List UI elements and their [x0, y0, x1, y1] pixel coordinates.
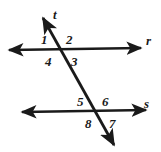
geometry-figure: r s t 1 2 3 4 5 6 7 8 — [0, 0, 161, 152]
line-label-r: r — [146, 34, 151, 47]
angle-label-6: 6 — [102, 95, 109, 108]
line-label-s: s — [144, 97, 149, 110]
angle-label-1: 1 — [41, 33, 48, 46]
line-s-stroke — [22, 110, 146, 112]
angle-label-4: 4 — [45, 55, 52, 68]
geometry-canvas — [0, 0, 161, 152]
line-label-t: t — [53, 8, 57, 21]
angle-label-7: 7 — [109, 117, 116, 130]
angle-label-8: 8 — [85, 117, 92, 130]
angle-label-3: 3 — [71, 55, 78, 68]
angle-label-5: 5 — [77, 95, 84, 108]
line-r-stroke — [9, 48, 141, 50]
line-t-stroke — [43, 18, 114, 145]
angle-label-2: 2 — [66, 33, 73, 46]
